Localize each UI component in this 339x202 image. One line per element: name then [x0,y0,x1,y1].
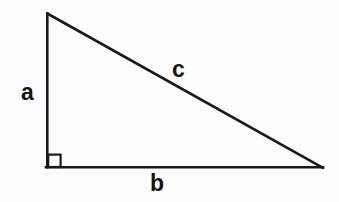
right-triangle-diagram: a c b [0,0,339,202]
side-label-b: b [150,172,164,195]
side-label-a: a [21,81,34,104]
right-angle-square-icon [48,155,60,167]
side-label-c: c [172,58,185,81]
triangle-graphic [0,0,339,202]
triangle-hypotenuse-c [47,14,323,168]
